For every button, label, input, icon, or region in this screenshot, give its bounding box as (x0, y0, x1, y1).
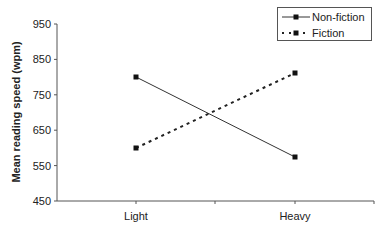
y-tick-label: 550 (33, 160, 51, 172)
legend-label-fiction: Fiction (312, 27, 344, 39)
y-tick-labels: 950 850 750 650 550 450 (33, 18, 51, 207)
series-non-fiction (134, 75, 298, 160)
y-tick-label: 750 (33, 89, 51, 101)
data-point (293, 71, 298, 76)
data-point (134, 146, 139, 151)
legend-label-non-fiction: Non-fiction (312, 11, 365, 23)
y-tick-label: 450 (33, 195, 51, 207)
series-fiction (134, 71, 298, 151)
chart: 950 850 750 650 550 450 Light Heavy Mean… (0, 0, 386, 234)
y-tick-label: 850 (33, 53, 51, 65)
x-tick-label-light: Light (124, 210, 148, 222)
legend: Non-fiction Fiction (278, 8, 372, 41)
y-tick-label: 950 (33, 18, 51, 30)
y-tick-label: 650 (33, 124, 51, 136)
data-point (293, 155, 298, 160)
x-tick-label-heavy: Heavy (279, 210, 311, 222)
y-axis-title: Mean reading speed (wpm) (10, 41, 22, 183)
data-point (134, 75, 139, 80)
